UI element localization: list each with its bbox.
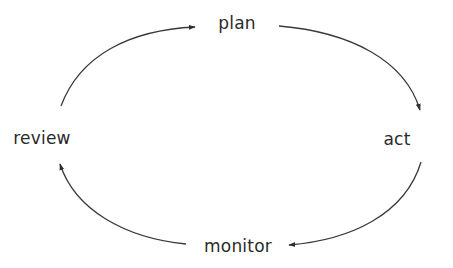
node-monitor: monitor — [204, 238, 272, 255]
arrow-plan-to-act — [279, 26, 420, 110]
arrow-review-to-plan — [61, 27, 195, 106]
arrow-act-to-monitor — [289, 162, 421, 245]
node-act: act — [383, 131, 410, 148]
arrow-monitor-to-review — [60, 164, 186, 244]
node-review: review — [13, 130, 70, 147]
cycle-diagram: plan act monitor review — [0, 0, 453, 268]
node-plan: plan — [218, 15, 256, 32]
